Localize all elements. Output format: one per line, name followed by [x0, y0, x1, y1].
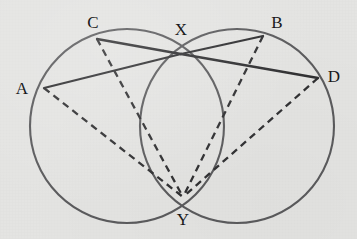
segment-D-Y [183, 78, 318, 197]
circles-group [30, 29, 334, 223]
segment-A-Y [44, 88, 183, 197]
segment-X-D [181, 54, 318, 78]
label-point-a: A [16, 80, 28, 97]
solid-chords-group [44, 36, 318, 88]
dashed-segments-group [44, 36, 318, 197]
label-point-b: B [271, 14, 282, 31]
segment-B-Y [183, 36, 263, 197]
label-point-y: Y [177, 211, 189, 228]
segment-C-Y [97, 39, 183, 197]
label-point-x: X [175, 21, 187, 38]
label-point-c: C [87, 14, 98, 31]
segment-C-X [97, 39, 181, 54]
segment-A-X [44, 54, 181, 88]
label-point-d: D [328, 68, 340, 85]
geometry-figure: A C X B D Y [0, 0, 357, 239]
left-circle [30, 29, 224, 223]
